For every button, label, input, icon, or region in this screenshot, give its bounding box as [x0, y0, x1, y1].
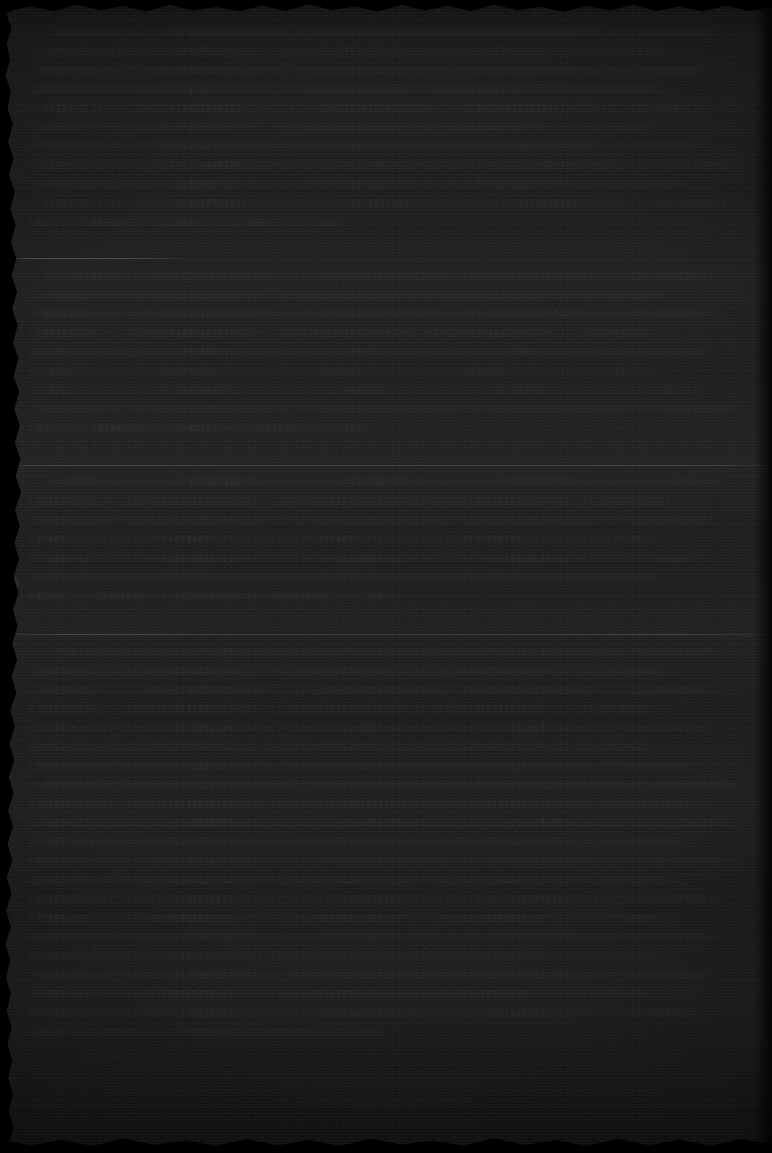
film-grain-texture	[0, 0, 772, 1153]
scanned-document-page	[0, 0, 772, 1153]
right-edge-vignette	[754, 0, 772, 1153]
